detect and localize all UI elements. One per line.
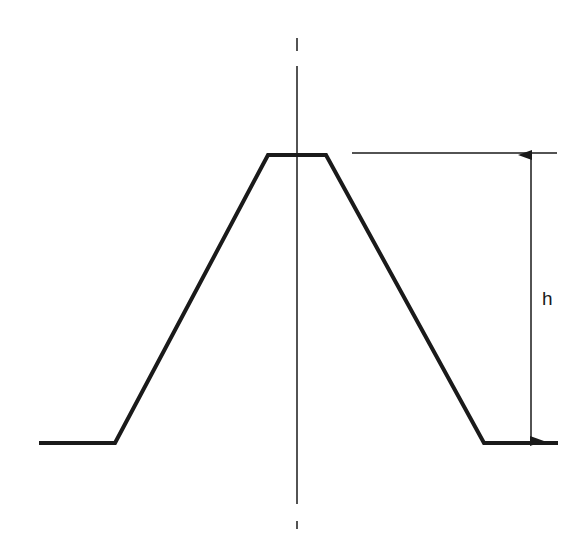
height-label: h <box>542 288 553 309</box>
trapezoid-profile <box>39 155 558 443</box>
trapezoid-diagram: h <box>0 0 587 549</box>
